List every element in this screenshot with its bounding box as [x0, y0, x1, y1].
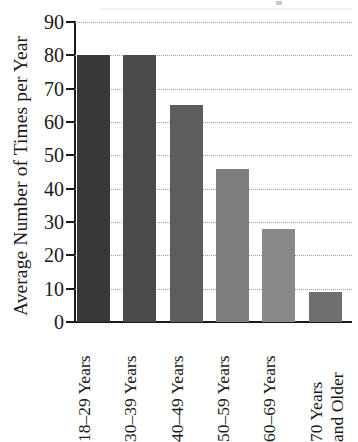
bar [77, 55, 110, 322]
x-axis-label-slot: 60–69 Years [259, 326, 305, 442]
x-axis-label-line: and Older [327, 373, 348, 442]
y-axis-tick-labels: 0102030405060708090 [12, 0, 64, 442]
cropped-title-artifact [276, 1, 282, 5]
y-axis-tick-label: 50 [24, 145, 64, 165]
gridline [74, 255, 352, 256]
y-axis-tick-label: 40 [24, 179, 64, 199]
y-axis-tick-label: 70 [24, 79, 64, 99]
gridline [74, 89, 352, 90]
bar [216, 169, 249, 322]
y-axis-tick-mark [66, 121, 75, 123]
y-axis-tick-label: 20 [24, 245, 64, 265]
bar [309, 292, 342, 322]
y-axis-tick-label: 30 [24, 212, 64, 232]
y-axis-tick-mark [66, 221, 75, 223]
y-axis-tick-mark [66, 154, 75, 156]
y-axis-tick-label: 10 [24, 279, 64, 299]
y-axis-tick-label: 60 [24, 112, 64, 132]
gridline [74, 55, 352, 56]
x-axis-label: 18–29 Years [74, 326, 120, 442]
cropped-title-artifact-line [100, 8, 352, 10]
bar-chart-figure: Average Number of Times per Year 0102030… [0, 0, 358, 442]
x-axis-label-slot: 50–59 Years [213, 326, 259, 442]
x-axis-label-line: 60–69 Years [259, 355, 280, 442]
plot-area [74, 22, 352, 322]
x-axis-label-line: 18–29 Years [74, 355, 95, 442]
x-axis-label-line: 70 Years [306, 373, 327, 442]
y-axis-tick-mark [66, 254, 75, 256]
x-axis-label-slot: 30–39 Years [120, 326, 166, 442]
y-axis-tick-mark [66, 21, 75, 23]
x-axis-label-slot: 70 Yearsand Older [306, 326, 352, 442]
gridline [74, 22, 352, 23]
x-axis-tick-labels: 18–29 Years30–39 Years40–49 Years50–59 Y… [74, 326, 352, 442]
y-axis-tick-label: 0 [24, 312, 64, 332]
gridline [74, 189, 352, 190]
gridline [74, 222, 352, 223]
x-axis-label: 40–49 Years [167, 326, 213, 442]
bar [262, 229, 295, 322]
x-axis-label-slot: 18–29 Years [74, 326, 120, 442]
y-axis-tick-mark [66, 288, 75, 290]
x-axis-label-line: 40–49 Years [167, 355, 188, 442]
x-axis-label-line: 50–59 Years [213, 355, 234, 442]
bar [170, 105, 203, 322]
y-axis-tick-label: 80 [24, 45, 64, 65]
gridline [74, 122, 352, 123]
bar [123, 55, 156, 322]
gridline [74, 155, 352, 156]
y-axis-tick-mark [66, 321, 75, 323]
x-axis-label: 70 Yearsand Older [306, 326, 352, 442]
gridline [74, 289, 352, 290]
y-axis-tick-mark [66, 88, 75, 90]
y-axis-tick-mark [66, 54, 75, 56]
y-axis-tick-mark [66, 188, 75, 190]
y-axis-tick-label: 90 [24, 12, 64, 32]
x-axis-label-line: 30–39 Years [120, 355, 141, 442]
x-axis-label: 50–59 Years [213, 326, 259, 442]
x-axis-label: 60–69 Years [259, 326, 305, 442]
x-axis-label-slot: 40–49 Years [167, 326, 213, 442]
x-axis-label: 30–39 Years [120, 326, 166, 442]
